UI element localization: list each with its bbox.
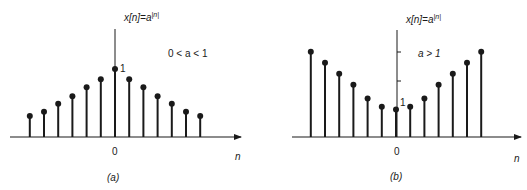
stem-dot (112, 66, 118, 72)
caption-b: (b) (390, 171, 402, 182)
equation-label: x[n]=a|n| (405, 13, 441, 25)
stem-dot (27, 113, 33, 119)
stem-dot (365, 96, 371, 102)
stem-dot (69, 93, 75, 99)
stem-dot (197, 113, 203, 119)
stem-dot (41, 109, 47, 115)
stem-dot (407, 104, 413, 110)
origin-label: 0 (394, 146, 400, 157)
stem-dot (478, 49, 484, 55)
condition-label: 0 < a < 1 (168, 48, 208, 59)
n-axis-label: n (514, 153, 520, 164)
panel-a: 1 x[n]=a|n| 0 < a < 1 0 n (a) (10, 11, 241, 183)
unit-label: 1 (400, 97, 406, 108)
stem-series (308, 49, 484, 137)
stem-dot (350, 82, 356, 88)
stem-dot (155, 93, 161, 99)
stem-dot (55, 101, 61, 107)
n-axis-label: n (235, 151, 241, 162)
stem-dot (98, 76, 104, 82)
stem-dot (421, 96, 427, 102)
stem-dot (450, 71, 456, 77)
stem-dot (169, 101, 175, 107)
origin-label: 0 (112, 146, 118, 157)
stem-dot (183, 109, 189, 115)
stem-dot (322, 60, 328, 66)
stem-dot (379, 104, 385, 110)
condition-label: a > 1 (418, 48, 441, 59)
stem-dot (393, 107, 399, 113)
unit-label: 1 (120, 63, 126, 74)
stem-dot (336, 71, 342, 77)
equation-label: x[n]=a|n| (123, 11, 159, 23)
stem-dot (126, 76, 132, 82)
caption-a: (a) (107, 172, 119, 183)
stem-dot (308, 49, 314, 55)
stem-dot (84, 84, 90, 90)
panel-b: 1 x[n]=a|n| a > 1 0 n (b) (292, 13, 521, 182)
signal-diagram: 1 x[n]=a|n| 0 < a < 1 0 n (a) 1 x[n]=a|n… (0, 0, 527, 190)
stem-dot (140, 84, 146, 90)
stem-series (27, 66, 203, 137)
stem-dot (436, 82, 442, 88)
stem-dot (464, 60, 470, 66)
